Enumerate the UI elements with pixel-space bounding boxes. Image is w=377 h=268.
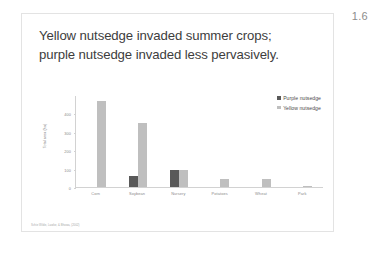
legend-swatch-icon — [277, 106, 281, 110]
page-title: Yellow nutsedge invaded summer crops; pu… — [39, 27, 309, 64]
bar — [129, 176, 138, 187]
y-axis-tick-label: 400 — [51, 112, 71, 117]
bar — [170, 170, 179, 187]
bar — [97, 101, 106, 187]
y-axis-title: Total area (ha) — [43, 108, 47, 164]
legend-item: Yellow nutsedge — [277, 105, 321, 111]
y-axis-tick-mark — [74, 170, 77, 171]
y-axis-tick-label: 200 — [51, 149, 71, 154]
page-number: 1.6 — [352, 10, 368, 22]
slide-card: Yellow nutsedge invaded summer crops; pu… — [21, 13, 334, 232]
x-axis-tick-labels: CornSoybeanNurseryPotatoesWheatPark — [75, 191, 323, 196]
source-citation: Schie Wilde, Lawlor, & Bhowa, (2002) — [31, 223, 80, 227]
x-axis-tick-label: Wheat — [240, 191, 281, 196]
y-axis-tick-label: 0 — [51, 186, 71, 191]
x-axis-tick-label: Potatoes — [199, 191, 240, 196]
bar — [303, 186, 312, 187]
slide-root: 1.6 Yellow nutsedge invaded summer crops… — [0, 0, 377, 268]
bar — [220, 179, 229, 187]
bar-group — [76, 96, 117, 187]
x-axis-tick-label: Park — [282, 191, 323, 196]
y-axis-tick-mark — [74, 133, 77, 134]
chart-legend: Purple nutsedgeYellow nutsedge — [277, 95, 321, 111]
legend-label: Yellow nutsedge — [283, 105, 321, 111]
y-axis-tick-labels: 0100200300400 — [51, 96, 71, 188]
x-axis-tick-label: Soybean — [116, 191, 157, 196]
legend-label: Purple nutsedge — [283, 95, 321, 101]
bar-chart: Total area (ha) 0100200300400 CornSoybea… — [35, 96, 325, 218]
x-axis-tick-label: Corn — [75, 191, 116, 196]
y-axis-tick-label: 100 — [51, 167, 71, 172]
legend-swatch-icon — [277, 96, 281, 100]
bar-group — [241, 96, 282, 187]
legend-item: Purple nutsedge — [277, 95, 321, 101]
y-axis-tick-label: 300 — [51, 130, 71, 135]
bar — [138, 123, 147, 187]
y-axis-tick-mark — [74, 114, 77, 115]
bar-group — [117, 96, 158, 187]
x-axis-tick-label: Nursery — [158, 191, 199, 196]
bar — [262, 179, 271, 187]
y-axis-tick-mark — [74, 151, 77, 152]
bar — [179, 170, 188, 187]
bar-group — [200, 96, 241, 187]
bar-group — [158, 96, 199, 187]
y-axis-tick-mark — [74, 188, 77, 189]
